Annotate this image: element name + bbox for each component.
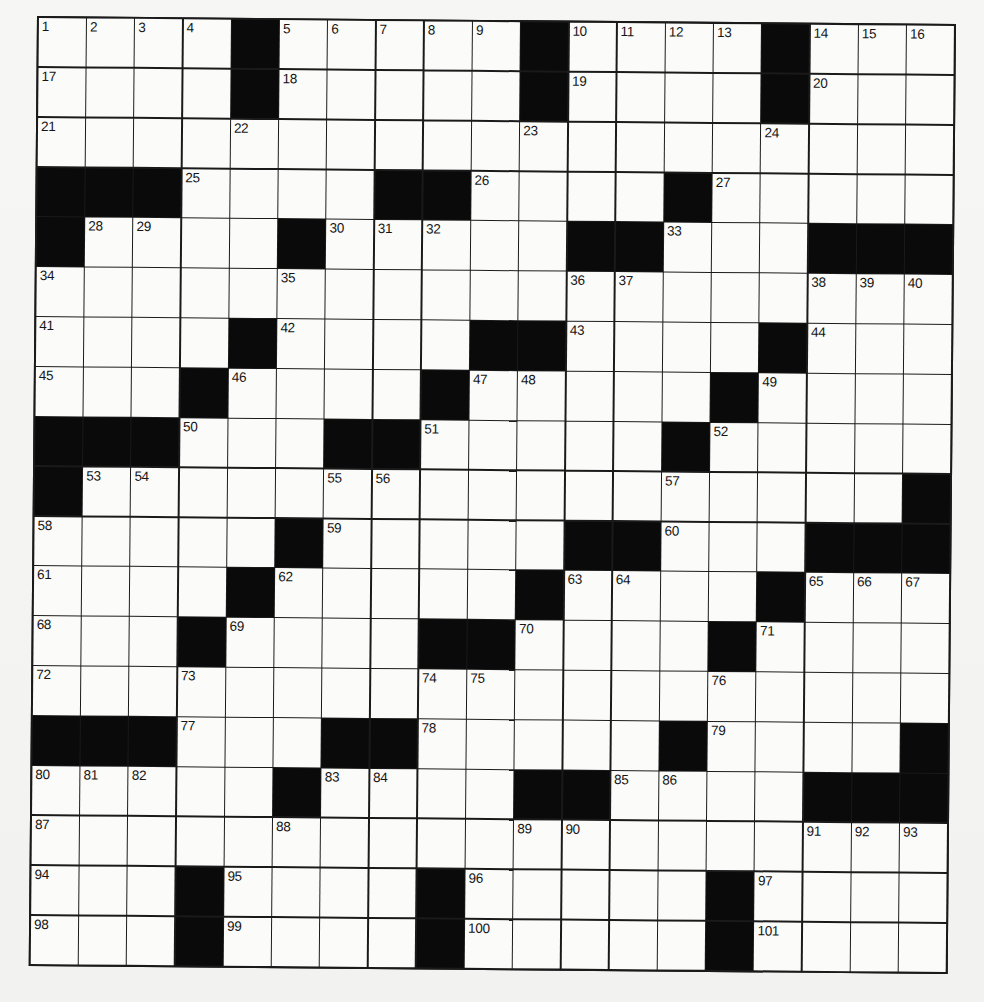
answer-cell[interactable] (565, 471, 612, 520)
answer-cell[interactable] (321, 818, 368, 867)
answer-cell[interactable] (84, 367, 131, 416)
answer-cell[interactable] (369, 869, 416, 918)
answer-cell[interactable]: 62 (275, 569, 322, 618)
answer-cell[interactable]: 64 (613, 572, 660, 621)
answer-cell[interactable] (183, 69, 230, 118)
answer-cell[interactable]: 10 (569, 23, 616, 72)
answer-cell[interactable]: 79 (708, 722, 755, 771)
answer-cell[interactable] (417, 819, 464, 868)
answer-cell[interactable] (375, 121, 422, 170)
answer-cell[interactable] (79, 866, 126, 915)
answer-cell[interactable] (658, 871, 705, 920)
answer-cell[interactable] (179, 518, 226, 567)
answer-cell[interactable] (904, 375, 951, 424)
answer-cell[interactable] (853, 673, 900, 722)
answer-cell[interactable] (131, 517, 178, 566)
answer-cell[interactable] (665, 123, 712, 172)
answer-cell[interactable]: 74 (419, 670, 466, 719)
answer-cell[interactable] (373, 370, 420, 419)
answer-cell[interactable]: 77 (177, 717, 224, 766)
answer-cell[interactable]: 48 (518, 371, 565, 420)
answer-cell[interactable]: 25 (182, 169, 229, 218)
answer-cell[interactable] (274, 668, 321, 717)
answer-cell[interactable] (272, 918, 319, 967)
answer-cell[interactable] (760, 224, 807, 273)
answer-cell[interactable] (176, 817, 223, 866)
answer-cell[interactable] (756, 673, 803, 722)
answer-cell[interactable]: 61 (34, 566, 81, 615)
answer-cell[interactable] (709, 523, 756, 572)
answer-cell[interactable] (422, 321, 469, 370)
answer-cell[interactable]: 12 (666, 23, 713, 72)
answer-cell[interactable] (181, 269, 228, 318)
answer-cell[interactable] (713, 74, 760, 123)
answer-cell[interactable] (84, 318, 131, 367)
answer-cell[interactable] (135, 69, 182, 118)
answer-cell[interactable] (805, 673, 852, 722)
answer-cell[interactable]: 42 (277, 319, 324, 368)
answer-cell[interactable]: 95 (224, 867, 271, 916)
answer-cell[interactable] (134, 119, 181, 168)
answer-cell[interactable]: 92 (851, 823, 898, 872)
answer-cell[interactable]: 67 (902, 574, 949, 623)
answer-cell[interactable] (326, 270, 373, 319)
answer-cell[interactable]: 56 (372, 470, 419, 519)
answer-cell[interactable]: 2 (87, 18, 134, 67)
answer-cell[interactable]: 78 (418, 719, 465, 768)
answer-cell[interactable] (225, 768, 272, 817)
answer-cell[interactable] (761, 174, 808, 223)
answer-cell[interactable] (277, 369, 324, 418)
answer-cell[interactable] (182, 219, 229, 268)
answer-cell[interactable] (519, 272, 566, 321)
answer-cell[interactable] (327, 170, 374, 219)
answer-cell[interactable] (712, 223, 759, 272)
answer-cell[interactable] (181, 318, 228, 367)
answer-cell[interactable] (86, 68, 133, 117)
answer-cell[interactable] (178, 568, 225, 617)
answer-cell[interactable] (803, 872, 850, 921)
answer-cell[interactable]: 18 (279, 70, 326, 119)
answer-cell[interactable] (182, 119, 229, 168)
answer-cell[interactable]: 51 (421, 420, 468, 469)
answer-cell[interactable] (663, 273, 710, 322)
answer-cell[interactable] (617, 73, 664, 122)
answer-cell[interactable] (82, 617, 129, 666)
answer-cell[interactable] (855, 424, 902, 473)
answer-cell[interactable]: 24 (761, 124, 808, 173)
answer-cell[interactable] (424, 121, 471, 170)
answer-cell[interactable] (130, 617, 177, 666)
answer-cell[interactable] (517, 421, 564, 470)
answer-cell[interactable] (802, 922, 849, 971)
answer-cell[interactable]: 81 (80, 766, 127, 815)
answer-cell[interactable] (563, 671, 610, 720)
answer-cell[interactable]: 31 (374, 220, 421, 269)
answer-cell[interactable] (566, 422, 613, 471)
answer-cell[interactable] (424, 71, 471, 120)
answer-cell[interactable] (807, 374, 854, 423)
answer-cell[interactable] (276, 419, 323, 468)
answer-cell[interactable]: 47 (470, 371, 517, 420)
answer-cell[interactable] (563, 721, 610, 770)
answer-cell[interactable] (225, 817, 272, 866)
answer-cell[interactable]: 89 (514, 820, 561, 869)
answer-cell[interactable] (128, 817, 175, 866)
answer-cell[interactable]: 39 (856, 274, 903, 323)
answer-cell[interactable] (132, 318, 179, 367)
answer-cell[interactable] (758, 523, 805, 572)
answer-cell[interactable] (230, 219, 277, 268)
answer-cell[interactable] (858, 125, 905, 174)
answer-cell[interactable]: 8 (424, 21, 471, 70)
answer-cell[interactable]: 87 (32, 816, 79, 865)
answer-cell[interactable] (274, 618, 321, 667)
answer-cell[interactable] (809, 124, 856, 173)
answer-cell[interactable]: 65 (805, 573, 852, 622)
answer-cell[interactable] (86, 118, 133, 167)
answer-cell[interactable] (420, 470, 467, 519)
answer-cell[interactable] (420, 520, 467, 569)
answer-cell[interactable]: 84 (370, 769, 417, 818)
answer-cell[interactable] (177, 767, 224, 816)
answer-cell[interactable] (899, 923, 946, 972)
answer-cell[interactable]: 98 (31, 915, 78, 964)
answer-cell[interactable]: 80 (32, 766, 79, 815)
answer-cell[interactable] (853, 623, 900, 672)
